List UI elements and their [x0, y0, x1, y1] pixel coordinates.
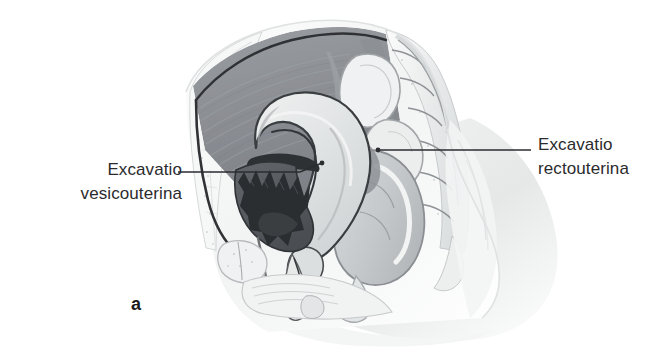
anatomical-figure: Excavatio vesicouterina Excavatio rectou…: [0, 0, 670, 348]
leader-dot-rectouterina: [376, 148, 381, 153]
label-excavatio-rectouterina: Excavatio rectouterina: [538, 133, 670, 181]
label-rectouterina-line2: rectouterina: [538, 157, 670, 181]
label-excavatio-vesicouterina: Excavatio vesicouterina: [0, 158, 182, 206]
label-vesicouterina-line1: Excavatio: [0, 158, 182, 182]
leader-dot-vesicouterina: [320, 161, 325, 166]
label-vesicouterina-line2: vesicouterina: [0, 182, 182, 206]
panel-letter: a: [131, 293, 141, 315]
label-rectouterina-line1: Excavatio: [538, 133, 670, 157]
perineal-body: [301, 296, 324, 319]
